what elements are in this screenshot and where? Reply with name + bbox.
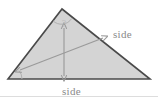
apex-question-mark-label: ? bbox=[62, 18, 67, 29]
triangle-figure-svg: ? side side bbox=[0, 0, 158, 99]
bottom-side-label: side bbox=[62, 85, 81, 97]
geometry-diagram: ? side side bbox=[0, 0, 158, 99]
right-side-label: side bbox=[113, 28, 132, 40]
